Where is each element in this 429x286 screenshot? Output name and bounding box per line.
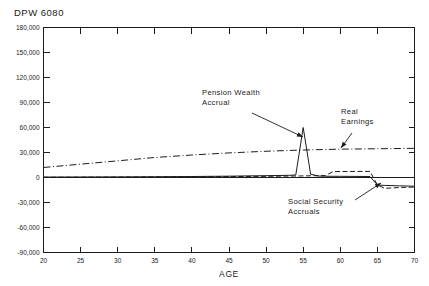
x-tick-label: 35 [151,257,159,264]
annotation-real-earnings: Real [341,107,358,116]
annotation-social-security-accruals: Social Security [288,197,343,206]
y-tick-label: -60,000 [17,224,39,231]
y-tick-label: 30,000 [20,149,40,156]
x-tick-label: 70 [411,257,419,264]
series-real-earnings [44,148,415,167]
y-tick-label: 0 [36,174,40,181]
axis-ticks [44,28,415,253]
x-tick-label: 45 [225,257,233,264]
annotation-pension-wealth-accrual: Accrual [202,98,230,107]
y-tick-label: -30,000 [17,199,39,206]
x-tick-label: 55 [300,257,308,264]
plot-frame [44,28,415,253]
annotation-real-earnings: Earnings [341,117,374,126]
x-tick-label: 20 [40,257,48,264]
y-tick-label: 180,000 [16,24,40,31]
y-tick-label: 150,000 [16,49,40,56]
x-axis-title: AGE [219,269,239,279]
chart-canvas: 180,000150,000120,00090,00060,00030,0000… [0,0,429,286]
x-tick-label: 50 [262,257,270,264]
annotation-social-security-accruals: Accruals [288,207,320,216]
y-axis-tick-labels: 180,000150,000120,00090,00060,00030,0000… [16,24,40,256]
y-tick-label: 60,000 [20,124,40,131]
series-social-security-accruals [44,171,415,188]
x-tick-label: 65 [374,257,382,264]
x-tick-label: 60 [337,257,345,264]
chart-title: DPW 6080 [14,7,64,18]
y-tick-label: 90,000 [20,99,40,106]
x-tick-label: 25 [77,257,85,264]
annotation-leader-lines [252,113,381,200]
x-tick-label: 40 [188,257,196,264]
x-axis-tick-labels: 2025303540455055606570 [40,257,419,264]
x-tick-label: 30 [114,257,122,264]
annotation-labels: Pension WealthAccrualRealEarningsSocial … [202,88,374,216]
chart-figure: 180,000150,000120,00090,00060,00030,0000… [0,0,429,286]
y-tick-label: 120,000 [16,74,40,81]
annotation-pension-wealth-accrual: Pension Wealth [202,88,260,97]
y-tick-label: -90,000 [17,249,39,256]
